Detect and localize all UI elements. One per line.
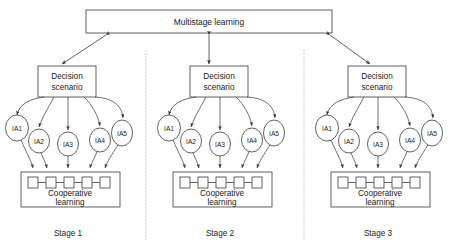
decision-scenario-label-line1: Decision: [203, 72, 235, 81]
decision-scenario-label-line1: Decision: [51, 72, 83, 81]
agent-label: IA2: [34, 138, 44, 145]
connector-title-to-stage3: [330, 35, 370, 64]
stage-caption: Stage 1: [54, 229, 83, 238]
cooperative-learning-label-line2: learning: [207, 198, 237, 207]
decision-scenario-box: [190, 66, 248, 97]
multistage-learning-label: Multistage learning: [174, 17, 245, 27]
agent-label: IA2: [186, 138, 196, 145]
agent-label: IA5: [117, 130, 127, 137]
cooperative-learning-label-line1: Cooperative: [200, 189, 245, 198]
cooperative-learning-label-line1: Cooperative: [48, 189, 93, 198]
agent-label: IA4: [247, 137, 257, 144]
agent-label: IA5: [427, 130, 437, 137]
decision-scenario-label-line1: Decision: [361, 72, 393, 81]
stage-caption: Stage 2: [206, 229, 235, 238]
decision-scenario-box: [348, 66, 406, 97]
agent-label: IA4: [405, 137, 415, 144]
agent-label: IA3: [215, 141, 225, 148]
cooperative-learning-label-line2: learning: [55, 198, 85, 207]
agent-label: IA2: [344, 138, 354, 145]
stage-caption: Stage 3: [364, 229, 393, 238]
connector-title-to-stage1: [62, 35, 106, 64]
agent-label: IA1: [322, 125, 332, 132]
decision-scenario-label-line2: scenario: [362, 83, 393, 92]
agent-label: IA3: [63, 141, 73, 148]
stage-2-group: Decision scenario IA1 IA2 IA3 IA4 IA5: [158, 66, 285, 238]
agent-label: IA1: [12, 125, 22, 132]
decision-scenario-label-line2: scenario: [52, 83, 83, 92]
decision-scenario-box: [38, 66, 96, 97]
cooperative-learning-label-line2: learning: [365, 198, 395, 207]
multistage-learning-diagram: Multistage learning Decision scenario IA…: [0, 0, 458, 251]
decision-scenario-label-line2: scenario: [204, 83, 235, 92]
stage-1-group: Decision scenario IA1 IA2 IA3 IA4 IA5: [6, 66, 133, 238]
agent-label: IA3: [373, 141, 383, 148]
agent-label: IA5: [269, 130, 279, 137]
agent-label: IA1: [164, 125, 174, 132]
agent-label: IA4: [95, 137, 105, 144]
cooperative-learning-label-line1: Cooperative: [358, 189, 403, 198]
stage-3-group: Decision scenario IA1 IA2 IA3 IA4 IA5: [316, 66, 443, 238]
